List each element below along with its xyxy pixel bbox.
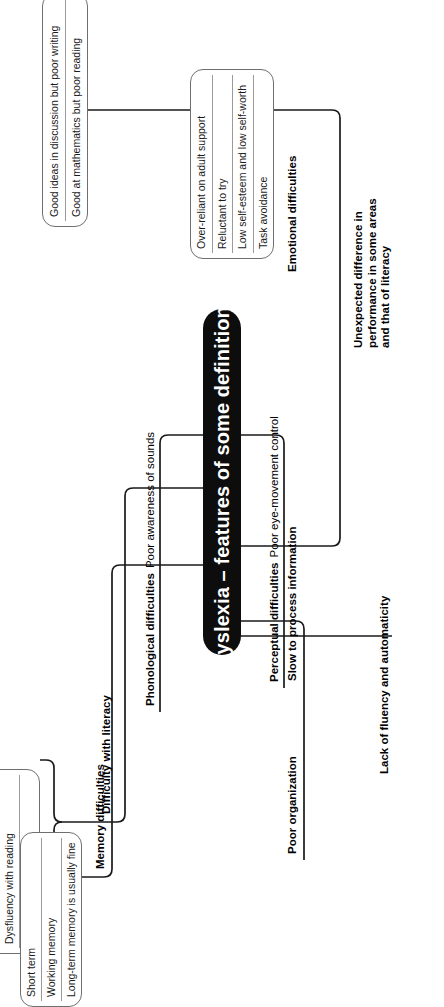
- branch-label-memory-difficulties[interactable]: Memory difficulties: [94, 764, 110, 869]
- unexpected-line-1: Unexpected difference in: [352, 118, 366, 348]
- branch-label-slow-to-process[interactable]: Slow to process information: [286, 526, 302, 681]
- list-item[interactable]: Long-term memory is usually fine: [61, 833, 81, 1006]
- unexpected-line-3: and that of literacy: [379, 118, 393, 348]
- phonological-bold-text: Phonological difficulties: [144, 573, 156, 706]
- branch-label-emotional-difficulties[interactable]: Emotional difficulties: [286, 156, 302, 272]
- phonological-detail-text: Poor awareness of sounds: [144, 432, 156, 568]
- unexpected-line-2: performance in some areas: [366, 118, 380, 348]
- branch-label-phonological-difficulties[interactable]: Phonological difficultiesPoor awareness …: [144, 432, 160, 706]
- list-item[interactable]: Over-reliant on adult support: [191, 70, 212, 258]
- list-item[interactable]: Working memory: [41, 833, 61, 1006]
- list-item[interactable]: Good ideas in discussion but poor writin…: [43, 0, 65, 226]
- list-item[interactable]: Short term: [21, 833, 41, 1006]
- list-item[interactable]: Low self-esteem and low self-worth: [232, 70, 253, 258]
- list-item[interactable]: Reluctant to try: [212, 70, 233, 258]
- leaf-box-unexpected-difference[interactable]: Good ideas in discussion but poor writin…: [42, 0, 88, 227]
- leaf-box-memory[interactable]: Short term Working memory Long-term memo…: [20, 832, 82, 1007]
- perceptual-detail-text: Poor eye-movement control: [268, 416, 280, 557]
- center-node-title: Dyslexia – features of some definitions: [211, 295, 234, 669]
- branch-label-perceptual-difficulties[interactable]: Perceptual difficultiesPoor eye-movement…: [268, 416, 284, 682]
- branch-label-lack-of-fluency[interactable]: Lack of fluency and automaticity: [378, 596, 394, 774]
- list-item[interactable]: Dysfluency with reading: [0, 770, 19, 953]
- list-item[interactable]: Task avoidance: [253, 70, 274, 258]
- center-node[interactable]: Dyslexia – features of some definitions: [203, 309, 241, 655]
- list-item[interactable]: Good at mathematics but poor reading: [65, 0, 87, 226]
- leaf-box-emotional[interactable]: Over-reliant on adult support Reluctant …: [190, 69, 274, 259]
- branch-label-poor-organization[interactable]: Poor organization: [286, 756, 302, 854]
- branch-label-unexpected-difference[interactable]: Unexpected difference in performance in …: [352, 118, 393, 348]
- perceptual-bold-text: Perceptual difficulties: [268, 562, 280, 682]
